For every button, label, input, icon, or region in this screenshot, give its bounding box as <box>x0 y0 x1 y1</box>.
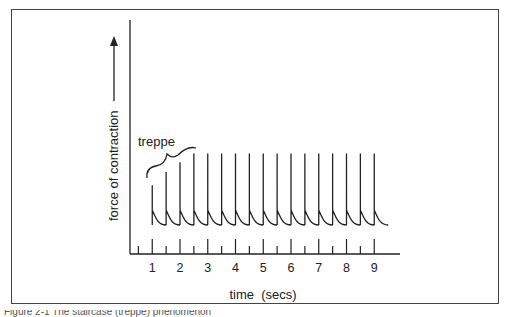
svg-text:4: 4 <box>232 261 239 275</box>
svg-text:8: 8 <box>343 261 350 275</box>
svg-text:1: 1 <box>149 261 156 275</box>
y-axis-label: force of contraction <box>106 110 121 221</box>
caption-strip: Figure 2-1 The staircase (treppe) phenom… <box>0 310 509 317</box>
x-axis-tick-labels: 123456789 <box>149 261 378 275</box>
svg-text:6: 6 <box>288 261 295 275</box>
treppe-label: treppe <box>138 134 175 149</box>
up-arrow-icon <box>110 36 118 101</box>
treppe-brace <box>147 147 196 178</box>
treppe-chart: force of contraction 123456789 treppe ti… <box>0 0 509 317</box>
svg-text:7: 7 <box>315 261 322 275</box>
svg-text:3: 3 <box>204 261 211 275</box>
svg-text:9: 9 <box>371 261 378 275</box>
contraction-trace <box>152 154 388 225</box>
x-axis-ticks <box>138 239 374 254</box>
svg-text:2: 2 <box>177 261 184 275</box>
svg-text:5: 5 <box>260 261 267 275</box>
figure-caption: Figure 2-1 The staircase (treppe) phenom… <box>4 310 211 317</box>
x-axis-label: time (secs) <box>229 287 296 302</box>
